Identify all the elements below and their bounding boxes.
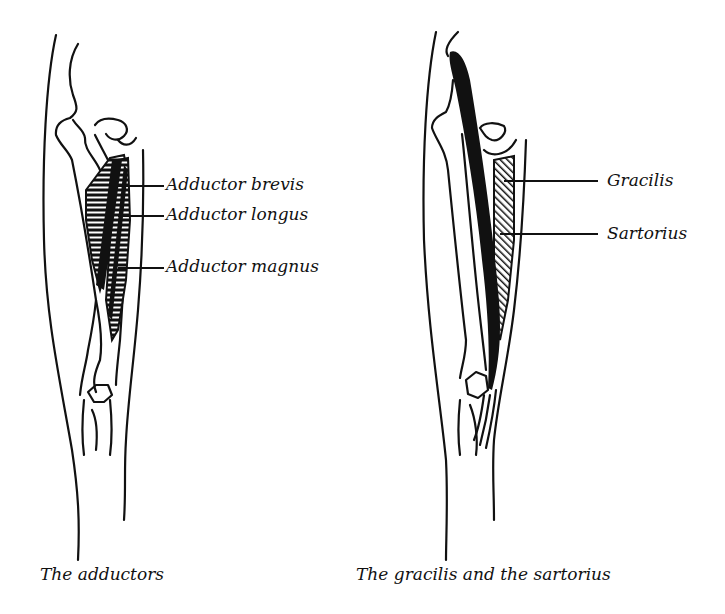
adductors-figure	[44, 35, 144, 560]
tibia-r	[459, 400, 461, 455]
pubis-r	[484, 140, 516, 154]
anatomy-diagram	[0, 0, 725, 614]
tibia-left	[83, 400, 85, 455]
caption-gracilis-sartorius: The gracilis and the sartorius	[356, 566, 611, 583]
acetabulum	[95, 119, 127, 140]
patella-r	[466, 372, 488, 398]
caption-adductors: The adductors	[40, 566, 164, 583]
acetabulum-r	[480, 123, 505, 140]
label-gracilis: Gracilis	[607, 172, 673, 189]
femur-outline-r	[432, 80, 466, 378]
fibula	[110, 400, 112, 455]
thigh-outline-left-r	[424, 32, 447, 560]
sartorius-muscle	[449, 51, 500, 390]
label-adductor-magnus: Adductor magnus	[166, 258, 319, 275]
adductor-muscles	[86, 155, 130, 340]
tibia-mid	[92, 410, 97, 450]
tibia-r2	[470, 405, 477, 455]
femur-neck	[95, 135, 108, 160]
label-sartorius: Sartorius	[607, 225, 687, 242]
label-adductor-brevis: Adductor brevis	[166, 176, 304, 193]
patella	[88, 385, 112, 402]
femur-head	[73, 120, 100, 170]
label-adductor-longus: Adductor longus	[166, 206, 308, 223]
